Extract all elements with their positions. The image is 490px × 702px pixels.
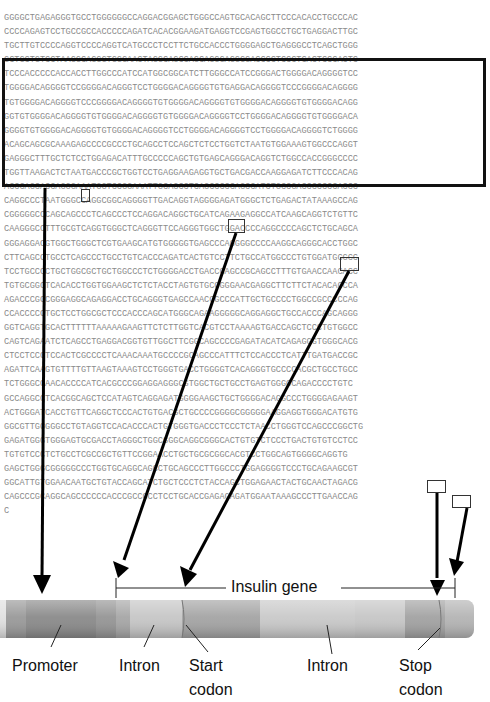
promoter-leader <box>51 625 61 647</box>
intron-start-arrow <box>124 233 236 560</box>
intron1-label: Intron <box>119 656 160 676</box>
intron1-leader <box>144 625 154 647</box>
intron2-label: Intron <box>307 656 348 676</box>
intron-arrowhead-icon <box>113 561 129 578</box>
start-codon-label: Start codon <box>189 656 233 700</box>
arrows-overlay <box>0 0 490 702</box>
start-codon-label-line1: Start <box>189 656 233 676</box>
stop-codon-label-line1: Stop <box>399 656 443 676</box>
end-arrowhead-icon <box>449 558 464 576</box>
gene-end-arrow <box>457 508 467 562</box>
stop-codon-label-line2: codon <box>399 680 443 700</box>
stop-codon-label: Stop codon <box>399 656 443 700</box>
insulin-gene-label: Insulin gene <box>229 578 319 596</box>
promoter-arrowhead-icon <box>33 575 51 594</box>
intron2-leader <box>327 625 332 654</box>
start-leader <box>186 625 208 652</box>
promoter-arrow <box>42 188 45 578</box>
start-codon-arrow <box>190 271 349 570</box>
promoter-label: Promoter <box>12 656 78 676</box>
start-codon-label-line2: codon <box>189 680 233 700</box>
stop-leader <box>418 628 440 650</box>
start-arrowhead-icon <box>180 566 197 587</box>
